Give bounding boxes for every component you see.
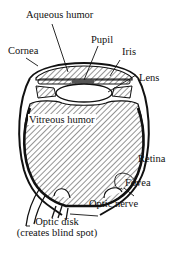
label-cornea: Cornea: [8, 45, 38, 56]
label-vitreous-humor: Vitreous humor: [28, 114, 96, 125]
label-optic-disk-group: Optic disk (creates blind spot): [12, 216, 102, 238]
label-pupil: Pupil: [91, 34, 113, 45]
lens: [56, 84, 112, 102]
label-optic-disk-note: (creates blind spot): [12, 227, 102, 238]
pupil-opening: [72, 80, 94, 84]
label-fovea: Fovea: [125, 177, 151, 188]
aqueous-humor-region: [36, 66, 132, 80]
label-optic-nerve: Optic nerve: [89, 198, 138, 209]
label-optic-disk: Optic disk: [12, 216, 102, 227]
label-iris: Iris: [122, 46, 136, 57]
label-lens: Lens: [139, 72, 159, 83]
eye-diagram: Aqueous humor Pupil Cornea Iris Lens Vit…: [0, 0, 172, 254]
ciliary-body-left: [36, 86, 56, 98]
label-aqueous-humor: Aqueous humor: [26, 9, 93, 20]
label-retina: Retina: [138, 153, 165, 164]
